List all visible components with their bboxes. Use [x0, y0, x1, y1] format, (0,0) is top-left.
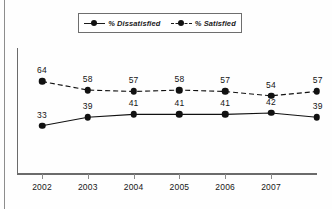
x-axis-tick — [88, 174, 89, 179]
x-axis-tick-label: 2002 — [32, 182, 52, 192]
data-point-marker — [268, 110, 275, 117]
data-point-label: 33 — [37, 110, 47, 120]
x-axis-tick — [271, 174, 272, 179]
data-point-label: 57 — [129, 75, 139, 85]
data-point-label: 57 — [220, 75, 230, 85]
data-point-marker — [176, 87, 183, 94]
data-point-marker — [222, 88, 229, 95]
data-point-marker — [176, 111, 183, 118]
x-axis-tick-label: 2003 — [78, 182, 98, 192]
data-point-marker — [85, 114, 92, 121]
data-point-marker — [130, 111, 137, 118]
x-axis-tick-label: 2004 — [124, 182, 144, 192]
x-axis-tick-label: 2007 — [261, 182, 281, 192]
data-point-label: 39 — [83, 101, 93, 111]
plot-area: 200220032004200520062007 645857585754573… — [0, 0, 332, 209]
data-point-label: 64 — [37, 65, 47, 75]
x-axis-tick — [134, 174, 135, 179]
chart-page: % Dissatisfied % Satisfied 2002200320042… — [0, 0, 332, 209]
data-point-label: 54 — [266, 80, 276, 90]
x-axis-tick-label: 2005 — [170, 182, 190, 192]
data-point-label: 41 — [129, 98, 139, 108]
x-axis-tick-label: 2006 — [215, 182, 235, 192]
data-point-marker — [39, 78, 46, 85]
data-point-label: 41 — [220, 98, 230, 108]
data-point-marker — [222, 111, 229, 118]
data-point-label: 42 — [266, 97, 276, 107]
data-point-label: 39 — [313, 101, 323, 111]
data-point-marker — [314, 114, 321, 121]
data-point-marker — [85, 87, 92, 94]
x-axis-tick — [179, 174, 180, 179]
data-point-marker — [130, 88, 137, 95]
data-point-marker — [314, 88, 321, 95]
data-point-label: 58 — [174, 74, 184, 84]
x-axis-tick — [42, 174, 43, 179]
data-point-marker — [39, 123, 46, 130]
x-axis-tick — [225, 174, 226, 179]
data-point-label: 41 — [174, 98, 184, 108]
data-point-label: 57 — [313, 75, 323, 85]
series-lines — [0, 0, 332, 209]
data-point-label: 58 — [83, 74, 93, 84]
